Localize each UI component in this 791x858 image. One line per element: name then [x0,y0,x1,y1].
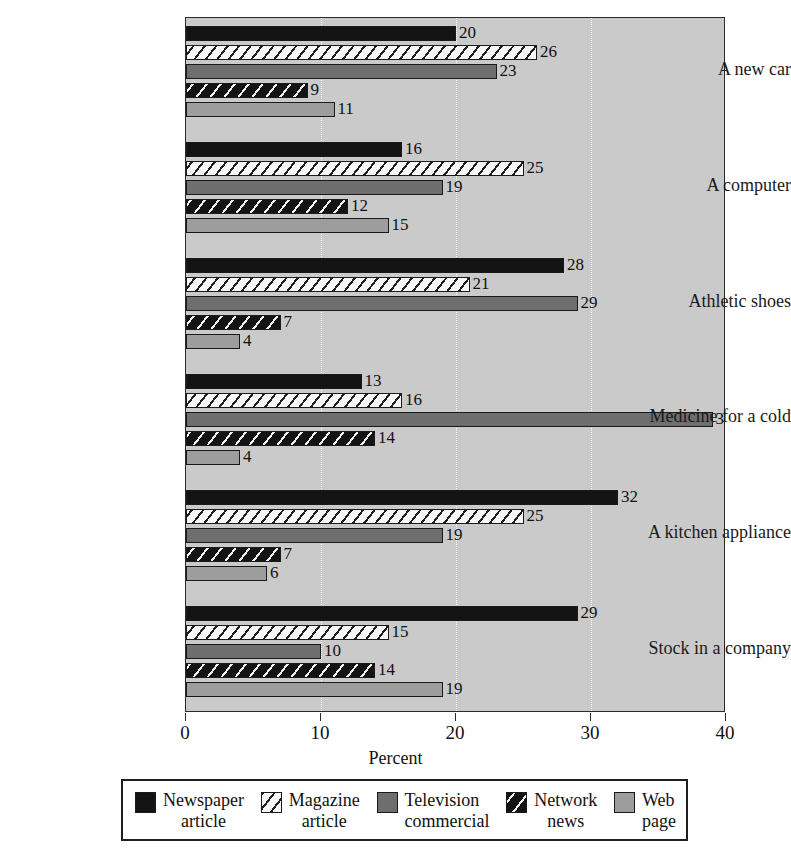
bar-value-label: 29 [581,605,598,620]
cut-off-title [0,0,791,3]
bar-value-label: 16 [405,141,422,156]
bar-value-label: 15 [392,624,409,639]
bar-value-label: 29 [581,295,598,310]
legend-item: Networknews [506,790,597,832]
tick-label: 20 [425,722,485,744]
bar [186,83,308,98]
bar-value-label: 4 [243,333,252,348]
bar-value-label: 25 [527,160,544,175]
legend-label: Newspaperarticle [163,790,244,832]
bar-value-label: 26 [540,44,557,59]
bar [186,277,470,292]
bar-value-label: 9 [311,82,320,97]
tick-mark [455,713,456,721]
plot-area: 2026239111625191215282129741316391443225… [185,17,725,712]
bar [186,431,375,446]
bar [186,374,362,389]
category-label: Medicine for a cold [615,406,791,427]
legend-swatch-solid-gray [377,792,398,813]
legend-label: Networknews [534,790,597,832]
bar [186,625,389,640]
category-label: A new car [615,59,791,80]
tick-mark [185,713,186,721]
bar [186,315,281,330]
bar [186,606,578,621]
bar-value-label: 12 [351,198,368,213]
bar [186,296,578,311]
legend-item: Magazinearticle [261,790,360,832]
bar-value-label: 11 [338,101,354,116]
bar [186,161,524,176]
bar-value-label: 19 [446,179,463,194]
legend-label: Magazinearticle [289,790,360,832]
bar [186,45,537,60]
bar-value-label: 6 [270,565,279,580]
bar-value-label: 19 [446,681,463,696]
tick-label: 30 [560,722,620,744]
bar-value-label: 14 [378,430,395,445]
bar-value-label: 15 [392,217,409,232]
bar [186,102,335,117]
tick-label: 10 [290,722,350,744]
legend-item: Webpage [614,790,676,832]
legend-label: Webpage [642,790,676,832]
bar [186,547,281,562]
bar [186,218,389,233]
bar [186,64,497,79]
bar [186,26,456,41]
legend-swatch-solid-ltgray [614,792,635,813]
bar [186,334,240,349]
legend-item: Newspaperarticle [135,790,244,832]
bar-value-label: 28 [567,257,584,272]
legend-swatch-solid-black [135,792,156,813]
bar-value-label: 25 [527,508,544,523]
legend-swatch-hatch-black [506,792,527,813]
bar [186,682,443,697]
tick-mark [590,713,591,721]
bar-value-label: 14 [378,662,395,677]
category-label: A computer [615,175,791,196]
bar-value-label: 19 [446,527,463,542]
tick-label: 40 [695,722,755,744]
bar-value-label: 23 [500,63,517,78]
bar-value-label: 32 [621,489,638,504]
bar [186,490,618,505]
bar [186,393,402,408]
category-label: Athletic shoes [615,291,791,312]
bar-value-label: 13 [365,373,382,388]
bar [186,199,348,214]
bar [186,509,524,524]
bar-value-label: 7 [284,314,293,329]
legend-item: Televisioncommercial [377,790,490,832]
legend-swatch-hatch-white [261,792,282,813]
chart-legend: NewspaperarticleMagazinearticleTelevisio… [121,779,688,841]
bar-value-label: 20 [459,25,476,40]
bar-value-label: 4 [243,449,252,464]
category-label: Stock in a company [615,638,791,659]
bar-value-label: 16 [405,392,422,407]
bar [186,180,443,195]
bar-value-label: 21 [473,276,490,291]
bar-value-label: 7 [284,546,293,561]
tick-mark [320,713,321,721]
bar [186,644,321,659]
bar [186,450,240,465]
chart-canvas: 2026239111625191215282129741316391443225… [0,0,791,858]
legend-label: Televisioncommercial [405,790,490,832]
bar-value-label: 10 [324,643,341,658]
tick-label: 0 [155,722,215,744]
bar [186,142,402,157]
bar [186,566,267,581]
bar [186,528,443,543]
tick-mark [725,713,726,721]
bar [186,258,564,273]
x-axis-title: Percent [0,748,791,769]
category-label: A kitchen appliance [615,522,791,543]
bar [186,663,375,678]
